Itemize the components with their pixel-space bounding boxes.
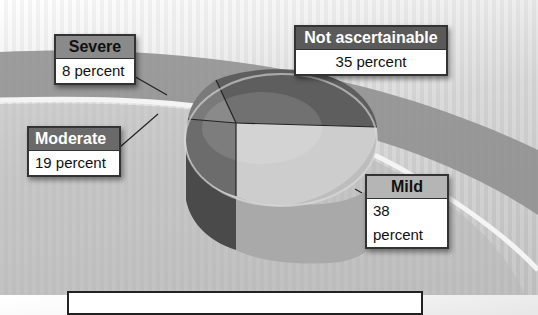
label-moderate-name: Moderate <box>29 128 119 151</box>
label-mild: Mild 38 percent <box>365 174 449 249</box>
label-severe: Severe 8 percent <box>54 34 136 85</box>
label-mild-value: 38 percent <box>367 199 447 247</box>
label-not-ascertainable-name: Not ascertainable <box>296 27 446 50</box>
label-not-ascertainable-value: 35 percent <box>296 50 446 74</box>
label-moderate: Moderate 19 percent <box>27 126 121 177</box>
label-severe-name: Severe <box>56 36 134 59</box>
label-severe-value: 8 percent <box>56 59 134 83</box>
caption-box <box>67 291 423 315</box>
label-moderate-value: 19 percent <box>29 151 119 175</box>
label-not-ascertainable: Not ascertainable 35 percent <box>294 25 448 76</box>
label-mild-name: Mild <box>367 176 447 199</box>
